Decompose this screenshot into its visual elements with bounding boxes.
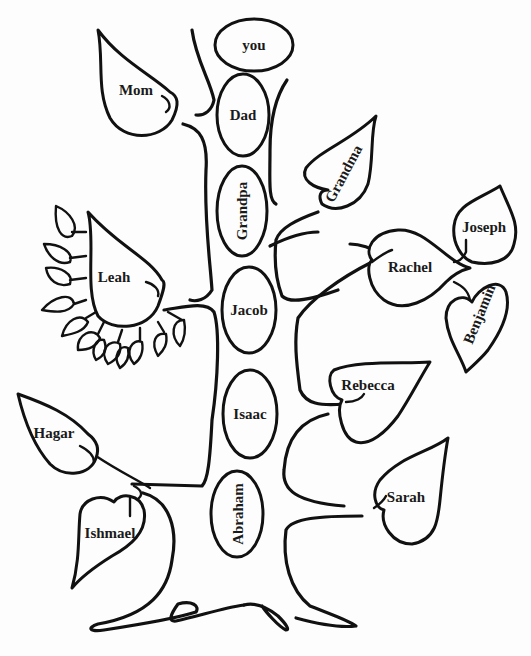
trunk-root-center [244, 604, 288, 630]
oval-you: you [215, 19, 293, 71]
stem-hagar [96, 456, 150, 488]
oval-grandpa: Grandpa [217, 166, 267, 256]
leaf-mom: Mom [98, 30, 177, 136]
trunk-right-grandma-branch [270, 80, 287, 204]
oval-label: Jacob [230, 302, 268, 318]
leaf-label: Rebecca [341, 377, 395, 393]
oval-label: Isaac [233, 406, 267, 422]
leaf-label: Joseph [462, 219, 507, 235]
trunk-top-left-branch [192, 30, 214, 115]
leaf-hagar: Hagar [18, 394, 98, 473]
leaf-benjamin: Benjamin [446, 282, 507, 372]
leaf-label: Hagar [34, 425, 75, 441]
leaf-rebecca: Rebecca [330, 362, 430, 443]
oval-jacob: Jacob [222, 267, 276, 353]
oval-label: Dad [230, 107, 257, 123]
leaf-ishmael: Ishmael [72, 496, 145, 588]
leaf-joseph: Joseph [454, 186, 516, 263]
leaf-label: Sarah [387, 489, 426, 505]
leaf-sarah: Sarah [374, 438, 448, 544]
oval-abraham: Abraham [211, 471, 263, 557]
oval-label: you [242, 37, 265, 53]
trunk-left-edge-upper [183, 124, 212, 301]
oval-label: Abraham [230, 483, 246, 545]
leaf-label: Ishmael [85, 525, 136, 541]
leaf-label: Mom [119, 82, 154, 98]
tree-drawing: you Dad Grandpa Jacob Isaac Abraham Mom … [0, 0, 531, 656]
trunk-right-edge-rebecca [284, 414, 344, 506]
trunk-base-right [285, 516, 362, 627]
family-tree-diagram: you Dad Grandpa Jacob Isaac Abraham Mom … [0, 0, 531, 656]
trunk-left-edge-middle [132, 306, 218, 486]
leaf-leah: Leah [88, 212, 164, 326]
oval-isaac: Isaac [223, 370, 277, 458]
leaf-grandma: Grandma [305, 116, 376, 208]
oval-dad: Dad [217, 74, 269, 156]
leaf-label: Leah [98, 269, 131, 285]
leaf-label: Rachel [388, 259, 432, 275]
oval-label: Grandpa [234, 181, 250, 240]
